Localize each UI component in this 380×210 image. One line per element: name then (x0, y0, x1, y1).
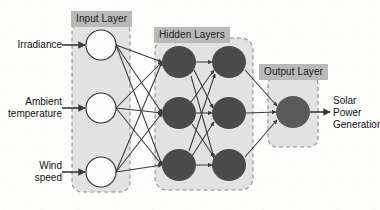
ambient-temperature-label-line-1: Ambient (2, 96, 62, 108)
solar-power-generation-label: Solar Power Generation (333, 95, 379, 131)
wind-speed-label-line-1: Wind (2, 160, 62, 172)
neural-network-diagram: Input Layer Hidden Layers Output Layer I… (0, 0, 380, 210)
output-label-line-3: Generation (333, 119, 379, 131)
irradiance-label-line-1: Irradiance (2, 39, 62, 51)
wind-speed-label-line-2: speed (2, 172, 62, 184)
output-label-line-1: Solar (333, 95, 379, 107)
irradiance-label: Irradiance (2, 39, 62, 51)
node-output[interactable] (276, 96, 310, 128)
output-label-line-2: Power (333, 107, 379, 119)
output-nodes (276, 96, 310, 128)
input-nodes (86, 30, 116, 187)
node-hidden-1-2[interactable] (162, 97, 196, 129)
node-hidden-2-3[interactable] (212, 149, 246, 181)
node-hidden-1-1[interactable] (162, 46, 196, 78)
node-irradiance[interactable] (86, 30, 116, 60)
output-layer-label: Output Layer (259, 64, 328, 80)
node-wind-speed[interactable] (86, 157, 116, 187)
ambient-temperature-label: Ambient temperature (2, 96, 62, 120)
node-hidden-2-2[interactable] (212, 97, 246, 129)
hidden-layers-label: Hidden Layers (154, 27, 230, 43)
wind-speed-label: Wind speed (2, 160, 62, 184)
node-ambient-temperature[interactable] (86, 93, 116, 123)
node-hidden-1-3[interactable] (162, 149, 196, 181)
input-layer-label: Input Layer (71, 11, 132, 27)
node-hidden-2-1[interactable] (212, 46, 246, 78)
ambient-temperature-label-line-2: temperature (2, 108, 62, 120)
